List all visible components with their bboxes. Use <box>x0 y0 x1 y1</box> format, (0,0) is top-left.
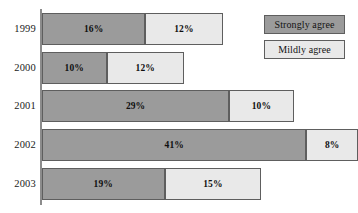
bar-segment-strongly-agree-1999[interactable]: 16% <box>42 13 145 45</box>
bar-value-label: 8% <box>325 140 339 150</box>
bar-segment-strongly-agree-2001[interactable]: 29% <box>42 90 229 122</box>
bar-value-label: 16% <box>84 24 103 34</box>
bar-value-label: 15% <box>203 179 222 189</box>
category-label-2003: 2003 <box>2 168 36 200</box>
legend-item-strongly-agree[interactable]: Strongly agree <box>264 15 345 34</box>
bar-value-label: 12% <box>174 24 193 34</box>
category-label-1999: 1999 <box>2 13 36 45</box>
category-label-2001: 2001 <box>2 90 36 122</box>
chart-legend: Strongly agree Mildly agree <box>264 15 345 65</box>
bar-segment-mildly-agree-1999[interactable]: 12% <box>145 13 222 45</box>
category-label-2002: 2002 <box>2 129 36 161</box>
bar-value-label: 10% <box>65 63 84 73</box>
bar-segment-strongly-agree-2000[interactable]: 10% <box>42 52 107 84</box>
bar-segment-strongly-agree-2003[interactable]: 19% <box>42 168 165 200</box>
legend-label: Strongly agree <box>275 19 335 30</box>
bar-value-label: 19% <box>94 179 113 189</box>
bar-track-2003: 19% 15% <box>42 168 261 200</box>
category-label-2000: 2000 <box>2 52 36 84</box>
bar-value-label: 29% <box>126 101 145 111</box>
bar-value-label: 41% <box>165 140 184 150</box>
bar-track-2001: 29% 10% <box>42 90 294 122</box>
bar-track-2000: 10% 12% <box>42 52 184 84</box>
bar-segment-strongly-agree-2002[interactable]: 41% <box>42 129 306 161</box>
legend-label: Mildly agree <box>278 44 331 55</box>
bar-track-2002: 41% 8% <box>42 129 358 161</box>
bar-value-label: 12% <box>136 63 155 73</box>
bar-value-label: 10% <box>252 101 271 111</box>
bar-segment-mildly-agree-2002[interactable]: 8% <box>306 129 358 161</box>
legend-item-mildly-agree[interactable]: Mildly agree <box>264 40 345 59</box>
bar-segment-mildly-agree-2001[interactable]: 10% <box>229 90 294 122</box>
bar-segment-mildly-agree-2003[interactable]: 15% <box>165 168 262 200</box>
bar-segment-mildly-agree-2000[interactable]: 12% <box>107 52 184 84</box>
bar-track-1999: 16% 12% <box>42 13 223 45</box>
